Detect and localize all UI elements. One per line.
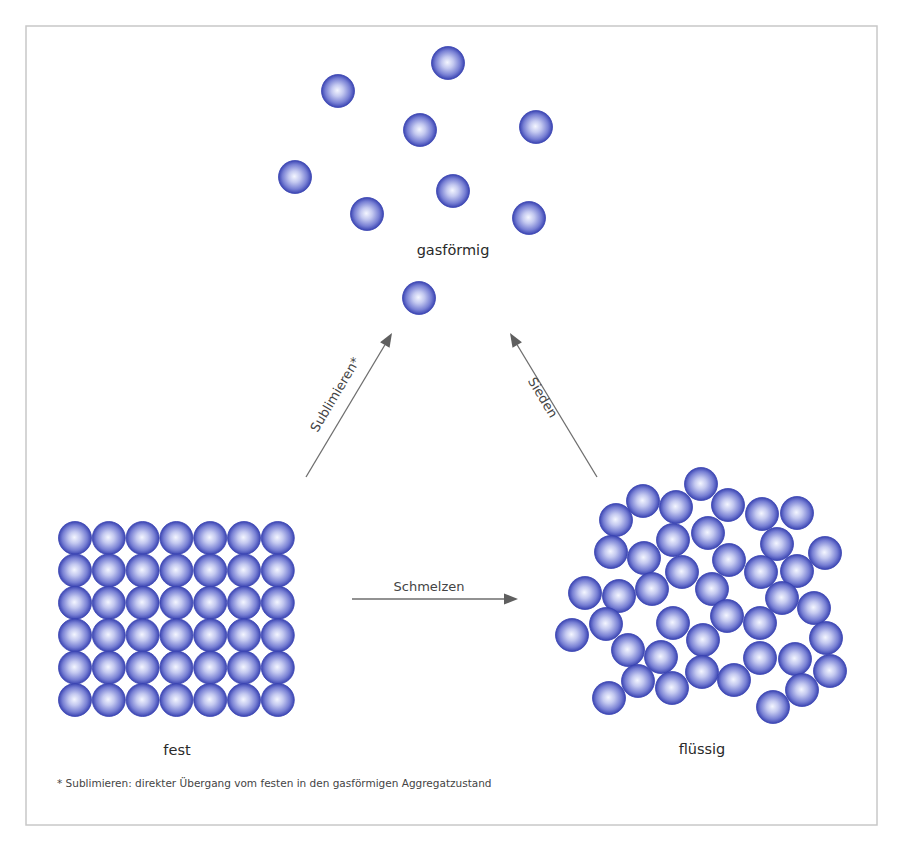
solid-particle	[194, 554, 227, 587]
gas-particle	[432, 47, 465, 80]
solid-particle	[59, 586, 92, 619]
solid-particle	[160, 586, 193, 619]
solid-particle	[160, 522, 193, 555]
liquid-particle	[622, 665, 655, 698]
liquid-particle	[761, 528, 794, 561]
arrow-head-icon	[504, 594, 518, 605]
solid-particle	[92, 684, 125, 717]
liquid-particle	[814, 655, 847, 688]
liquid-particle	[685, 468, 718, 501]
liquid-particle	[593, 682, 626, 715]
solid-particle	[261, 684, 294, 717]
liquid-particle	[686, 656, 719, 689]
arrow-schmelzen: Schmelzen	[352, 579, 518, 605]
liquid-particle	[660, 491, 693, 524]
solid-particle	[228, 522, 261, 555]
liquid-particle	[556, 619, 589, 652]
liquid-particle	[786, 674, 819, 707]
liquid-particle	[713, 544, 746, 577]
solid-particle	[160, 651, 193, 684]
liquid-particle	[766, 582, 799, 615]
solid-particle	[194, 586, 227, 619]
solid-particle	[59, 522, 92, 555]
liquid-particle	[779, 643, 812, 676]
solid-particle	[92, 619, 125, 652]
solid-particle	[126, 586, 159, 619]
solid-particle	[228, 586, 261, 619]
arrow-sublimieren: Sublimieren*	[306, 333, 392, 477]
liquid-particle	[687, 624, 720, 657]
label-sieden: Sieden	[525, 375, 561, 421]
solid-particle	[126, 651, 159, 684]
solid-particle	[228, 554, 261, 587]
gas-particle	[279, 161, 312, 194]
liquid-particle	[718, 664, 751, 697]
aggregate-states-diagram: gasförmig fest flüssig Sublimieren*Siede…	[0, 0, 901, 845]
liquid-particle	[809, 537, 842, 570]
solid-particle	[194, 522, 227, 555]
solid-particle	[261, 651, 294, 684]
liquid-particle	[612, 634, 645, 667]
solid-particle	[228, 651, 261, 684]
solid-particle	[92, 554, 125, 587]
liquid-particle	[757, 691, 790, 724]
liquid-particle	[666, 556, 699, 589]
solid-particle	[228, 684, 261, 717]
liquid-particles	[556, 468, 847, 724]
solid-particle	[126, 554, 159, 587]
solid-particle	[126, 619, 159, 652]
liquid-particle	[636, 573, 669, 606]
gas-particle	[403, 282, 436, 315]
gas-particles	[279, 47, 553, 315]
solid-particle	[160, 619, 193, 652]
label-schmelzen: Schmelzen	[394, 579, 465, 594]
solid-particle	[59, 619, 92, 652]
solid-particles	[59, 522, 295, 717]
solid-particle	[92, 522, 125, 555]
arrow-head-icon	[380, 333, 392, 348]
solid-particle	[228, 619, 261, 652]
solid-particle	[126, 522, 159, 555]
liquid-particle	[781, 497, 814, 530]
solid-particle	[126, 684, 159, 717]
liquid-particle	[744, 607, 777, 640]
liquid-particle	[745, 556, 778, 589]
liquid-particle	[595, 536, 628, 569]
solid-particle	[261, 522, 294, 555]
liquid-particle	[692, 517, 725, 550]
liquid-particle	[656, 672, 689, 705]
liquid-particle	[569, 577, 602, 610]
liquid-particle	[810, 622, 843, 655]
liquid-particle	[712, 489, 745, 522]
solid-particle	[194, 619, 227, 652]
liquid-particle	[657, 607, 690, 640]
liquid-particle	[711, 600, 744, 633]
liquid-particle	[746, 498, 779, 531]
gas-particle	[322, 75, 355, 108]
solid-particle	[261, 586, 294, 619]
solid-particle	[59, 554, 92, 587]
solid-particle	[92, 651, 125, 684]
liquid-particle	[744, 642, 777, 675]
liquid-particle	[657, 524, 690, 557]
liquid-particle	[627, 485, 660, 518]
arrow-head-icon	[510, 333, 522, 348]
footnote: * Sublimieren: direkter Übergang vom fes…	[57, 777, 492, 789]
gas-particle	[513, 202, 546, 235]
gas-particle	[520, 111, 553, 144]
arrow-sieden: Sieden	[510, 333, 597, 477]
solid-particle	[160, 554, 193, 587]
label-solid: fest	[163, 742, 191, 758]
solid-particle	[59, 684, 92, 717]
solid-particle	[59, 651, 92, 684]
label-liquid: flüssig	[679, 741, 726, 757]
solid-particle	[194, 651, 227, 684]
gas-particle	[404, 114, 437, 147]
gas-particle	[437, 175, 470, 208]
liquid-particle	[645, 641, 678, 674]
solid-particle	[261, 619, 294, 652]
gas-particle	[351, 198, 384, 231]
liquid-particle	[590, 608, 623, 641]
solid-particle	[261, 554, 294, 587]
liquid-particle	[798, 592, 831, 625]
